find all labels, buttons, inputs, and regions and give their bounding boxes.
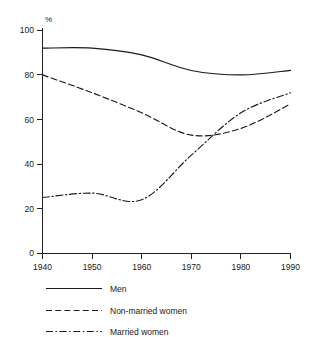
x-tick-label-1970: 1970 [182, 262, 201, 272]
series-line-men [43, 48, 291, 75]
line-chart: % 100 80 60 40 20 0 1940 1950 196 [0, 0, 313, 337]
legend-label-married-women: Married women [110, 327, 169, 337]
legend-item-men: Men [46, 284, 127, 294]
y-tick-label-40: 40 [25, 159, 35, 169]
x-tick-label-1990: 1990 [281, 262, 300, 272]
x-tick-label-1980: 1980 [231, 262, 250, 272]
chart-legend: Men Non-married women Married women [46, 284, 187, 337]
legend-item-married-women: Married women [46, 327, 169, 337]
y-tick-label-20: 20 [25, 204, 35, 214]
y-axis-ticks: 100 80 60 40 20 0 [20, 25, 43, 258]
series-group [43, 48, 291, 202]
x-tick-label-1950: 1950 [83, 262, 102, 272]
series-line-non-married-women [43, 75, 291, 136]
y-tick-label-60: 60 [25, 115, 35, 125]
legend-label-non-married-women: Non-married women [110, 306, 187, 316]
y-axis-unit-label: % [45, 15, 52, 24]
x-tick-label-1940: 1940 [33, 262, 52, 272]
legend-item-non-married-women: Non-married women [46, 306, 187, 316]
chart-figure: % 100 80 60 40 20 0 1940 1950 196 [0, 0, 313, 337]
x-axis-ticks: 1940 1950 1960 1970 1980 1990 [33, 254, 300, 273]
y-tick-label-80: 80 [25, 70, 35, 80]
x-tick-label-1960: 1960 [132, 262, 151, 272]
y-tick-label-0: 0 [29, 248, 34, 258]
legend-label-men: Men [110, 284, 127, 294]
y-tick-label-100: 100 [20, 25, 34, 35]
series-line-married-women [43, 93, 291, 202]
